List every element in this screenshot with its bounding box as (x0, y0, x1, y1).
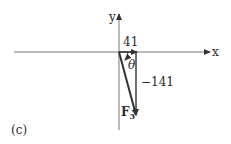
y-component-label: −141 (141, 76, 174, 88)
vector-label-main: F (121, 105, 130, 119)
x-component-label: 41 (123, 36, 138, 48)
vector-label-subscript: 3 (130, 111, 136, 121)
panel-label: (c) (11, 124, 27, 136)
angle-label: θ (128, 59, 135, 71)
x-axis-label: x (212, 46, 219, 58)
y-axis-label: y (109, 11, 116, 23)
vector-label: F3 (121, 106, 135, 122)
